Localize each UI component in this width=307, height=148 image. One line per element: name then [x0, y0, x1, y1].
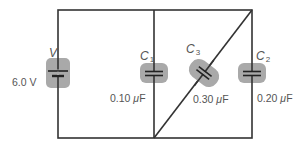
c1-value-label: 0.10 μF	[110, 93, 146, 104]
c2-symbol-label: C2	[256, 50, 270, 64]
c3-value-label: 0.30 μF	[193, 94, 229, 105]
c3-symbol-label: C3	[186, 43, 200, 57]
battery-v	[46, 58, 70, 88]
capacitor-c3	[182, 51, 227, 96]
battery-symbol-label: V	[49, 47, 57, 59]
battery-voltage-label: 6.0 V	[12, 77, 37, 88]
capacitor-c2	[238, 63, 266, 83]
circuit-diagram	[0, 0, 307, 148]
c2-value-label: 0.20 μF	[257, 93, 293, 104]
c1-symbol-label: C1	[140, 50, 154, 64]
capacitor-c1	[140, 63, 168, 83]
